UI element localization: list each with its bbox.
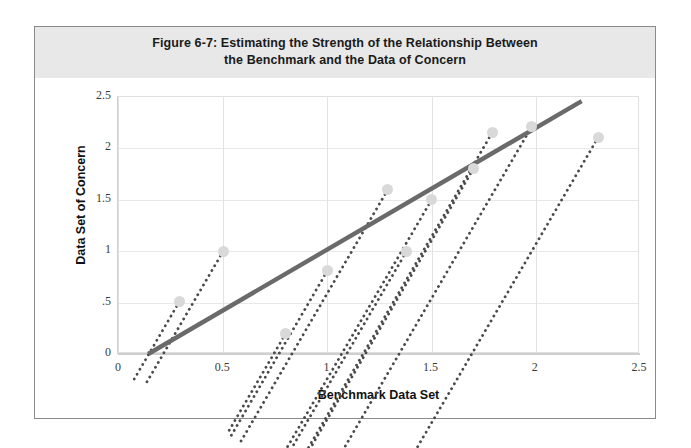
chart-container: Data Set of Concern Benchmark Data Set 0… bbox=[35, 78, 657, 419]
x-tick-label: 0 bbox=[98, 360, 138, 375]
figure-title-band: Figure 6-7: Estimating the Strength of t… bbox=[35, 27, 655, 78]
data-point bbox=[526, 121, 537, 132]
data-point bbox=[426, 194, 437, 205]
data-point bbox=[322, 265, 333, 276]
data-point bbox=[487, 127, 498, 138]
x-tick-label: 1.5 bbox=[411, 360, 451, 375]
y-tick-label: 1 bbox=[67, 242, 111, 257]
figure-title-line-2: the Benchmark and the Data of Concern bbox=[224, 53, 466, 67]
plot-area bbox=[118, 96, 639, 353]
y-tick-label: .5 bbox=[67, 294, 111, 309]
figure-title-line-1: Figure 6-7: Estimating the Strength of t… bbox=[152, 36, 538, 50]
x-tick-label: 2.5 bbox=[619, 360, 659, 375]
data-point bbox=[382, 184, 393, 195]
x-axis-label: Benchmark Data Set bbox=[118, 388, 639, 402]
data-point bbox=[174, 296, 185, 307]
data-point bbox=[280, 328, 291, 339]
x-axis-ticks: 00.511.522.5 bbox=[118, 360, 639, 382]
data-point bbox=[468, 163, 479, 174]
data-point bbox=[593, 132, 604, 143]
data-point bbox=[218, 246, 229, 257]
figure-title: Figure 6-7: Estimating the Strength of t… bbox=[35, 35, 655, 69]
y-axis-ticks: 0.511.522.5 bbox=[63, 96, 111, 353]
y-tick-label: 0 bbox=[67, 345, 111, 360]
data-points-layer bbox=[119, 97, 638, 352]
figure-frame: Figure 6-7: Estimating the Strength of t… bbox=[34, 26, 656, 419]
x-tick-label: 0.5 bbox=[202, 360, 242, 375]
y-tick-label: 2 bbox=[67, 139, 111, 154]
y-tick-label: 2.5 bbox=[67, 88, 111, 103]
data-point bbox=[401, 246, 412, 257]
x-tick-label: 2 bbox=[515, 360, 555, 375]
y-tick-label: 1.5 bbox=[67, 191, 111, 206]
